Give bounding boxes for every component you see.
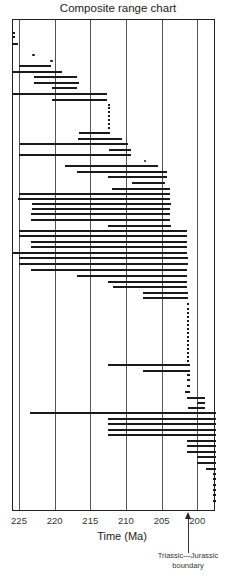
boundary-label-line2: boundary bbox=[140, 561, 236, 571]
boundary-label-line1: Triassic—Jurassic bbox=[140, 551, 236, 561]
plot-frame bbox=[12, 19, 215, 511]
boundary-arrow-line bbox=[188, 518, 189, 553]
x-tick-label: 225 bbox=[11, 515, 27, 526]
x-tick-label: 215 bbox=[82, 515, 98, 526]
x-axis-label: Time (Ma) bbox=[0, 530, 236, 542]
chart-title: Composite range chart bbox=[0, 2, 236, 14]
x-tick-label: 200 bbox=[189, 515, 205, 526]
x-tick-label: 210 bbox=[118, 515, 134, 526]
x-tick-label: 220 bbox=[47, 515, 63, 526]
x-tick-label: 205 bbox=[154, 515, 170, 526]
